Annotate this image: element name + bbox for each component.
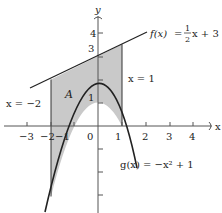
x-tick-label: 3 [166, 131, 172, 142]
x-tick-label: −3 [19, 131, 34, 142]
y-tick-label: 1 [88, 92, 94, 103]
shaded-region-a [51, 44, 122, 196]
svg-text:x + 3: x + 3 [192, 28, 219, 39]
x-axis [4, 122, 212, 130]
y-axis-label: y [94, 4, 101, 15]
svg-text:1: 1 [185, 24, 190, 33]
svg-text:f(x): f(x) [149, 28, 167, 39]
g-equation-label: g(x) = −x² + 1 [120, 159, 194, 170]
y-tick-label: 3 [88, 43, 94, 54]
y-axis [94, 16, 103, 213]
svg-text:2: 2 [185, 35, 190, 44]
x-tick-label: −1 [55, 131, 70, 142]
svg-text:=: = [174, 28, 182, 39]
area-between-curves-diagram: y x −3 −2 −1 0 1 2 3 4 1 3 4 A x = −2 x … [0, 0, 222, 213]
region-label: A [64, 88, 73, 101]
x-tick-label: 4 [189, 131, 195, 142]
right-bound-label: x = 1 [128, 73, 155, 84]
x-tick-label: 1 [115, 131, 121, 142]
x-tick-label: 0 [87, 131, 93, 142]
y-tick-label: 4 [90, 28, 96, 39]
f-equation-label: f(x) = 1 2 x + 3 [149, 24, 219, 44]
x-tick-label: 2 [142, 131, 148, 142]
x-tick-label: −2 [40, 131, 55, 142]
left-bound-label: x = −2 [6, 98, 41, 109]
x-axis-label: x [215, 121, 221, 132]
